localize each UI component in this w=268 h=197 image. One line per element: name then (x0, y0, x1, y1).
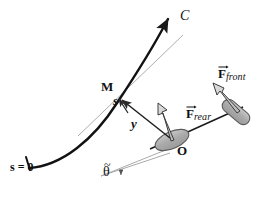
angle-arc (120, 169, 121, 175)
lateral-offset-label-y: y (131, 117, 137, 130)
diagram-canvas (0, 0, 268, 197)
force-front-label: F front (218, 65, 246, 82)
force-rear-subscript: rear (194, 111, 211, 122)
arc-origin-label: s = 0 (10, 161, 34, 173)
force-front-subscript: front (226, 71, 246, 82)
curve-label-c: C (180, 9, 189, 23)
lateral-offset-vector (122, 100, 170, 138)
reference-curve-path (29, 19, 168, 168)
point-label-o: O (177, 144, 187, 157)
figure-root: C M s y s = 0 O F rear F front ~θ (0, 0, 268, 197)
tilde-accent-icon: ~ (104, 159, 111, 171)
point-label-m: M (101, 80, 113, 93)
y-vector-line (122, 100, 170, 138)
vector-arrow-icon (218, 64, 229, 69)
force-rear-label: F rear (186, 105, 211, 122)
heading-angle-label: ~θ (103, 165, 110, 179)
reference-curve-group (26, 19, 168, 170)
vector-arrow-icon (186, 104, 197, 109)
arc-length-label-s: s (113, 95, 118, 107)
angle-heading-line (101, 153, 170, 176)
